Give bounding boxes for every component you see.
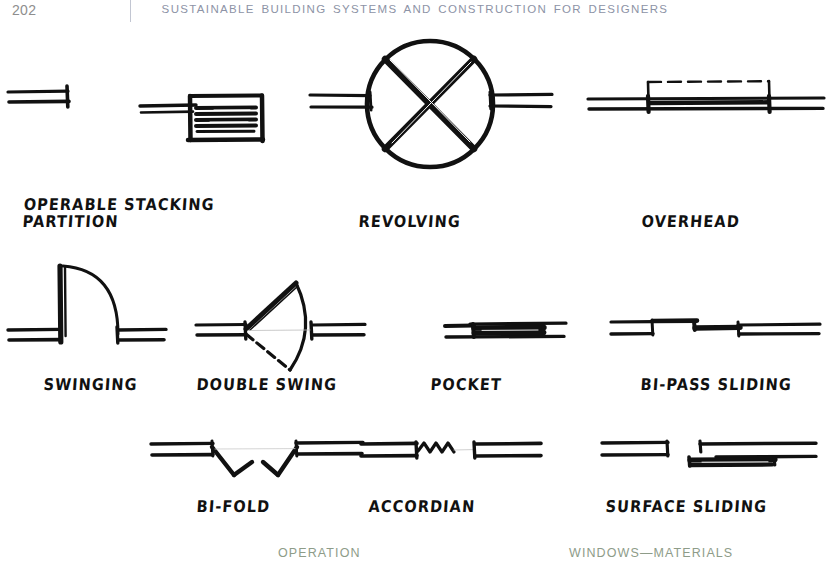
figure-revolving xyxy=(300,32,560,177)
figure-surface-sliding xyxy=(590,430,830,480)
figure-accordian xyxy=(355,430,555,475)
caption-line-1: DOUBLE SWING xyxy=(196,375,338,393)
caption-bi-pass-sliding: BI-PASS SLIDING xyxy=(640,376,792,393)
caption-line-1: OPERABLE STACKING xyxy=(23,195,215,213)
figure-overhead xyxy=(580,66,830,126)
caption-line-1: BI-PASS SLIDING xyxy=(640,375,793,393)
caption-line-1: REVOLVING xyxy=(358,212,461,230)
caption-line-1: SWINGING xyxy=(43,375,138,393)
caption-line-1: BI-FOLD xyxy=(196,497,271,515)
caption-operable-stacking-partition: OPERABLE STACKINGPARTITION xyxy=(22,196,215,230)
stacked-panel-partition-icon xyxy=(0,78,280,178)
footer-label-windows-materials: WINDOWS—MATERIALS xyxy=(569,546,733,560)
revolving-door-icon xyxy=(300,32,560,177)
running-head-title: SUSTAINABLE BUILDING SYSTEMS AND CONSTRU… xyxy=(0,3,830,15)
page-header: 202 SUSTAINABLE BUILDING SYSTEMS AND CON… xyxy=(0,0,830,26)
caption-revolving: REVOLVING xyxy=(358,213,461,230)
caption-line-1: POCKET xyxy=(430,375,502,393)
double-acting-door-icon xyxy=(190,272,430,372)
caption-pocket: POCKET xyxy=(430,376,502,393)
single-swing-door-icon xyxy=(0,250,190,360)
figure-double-swing xyxy=(190,272,430,372)
figure-swinging xyxy=(0,250,190,360)
caption-swinging: SWINGING xyxy=(43,376,138,393)
figure-pocket xyxy=(440,306,590,356)
caption-bi-fold: BI-FOLD xyxy=(196,498,271,515)
figure-operable-stacking-partition xyxy=(0,78,280,178)
surface-sliding-door-icon xyxy=(590,430,830,480)
pocket-door-icon xyxy=(440,306,590,356)
caption-accordian: ACCORDIAN xyxy=(368,498,476,515)
caption-line-1: OVERHEAD xyxy=(641,212,741,230)
caption-line-2: PARTITION xyxy=(22,212,119,230)
overhead-door-icon xyxy=(580,66,830,126)
bypass-sliding-door-icon xyxy=(605,308,830,353)
footer-label-operation: OPERATION xyxy=(278,546,361,560)
bifold-door-icon xyxy=(145,428,375,488)
caption-double-swing: DOUBLE SWING xyxy=(196,376,338,393)
caption-line-1: ACCORDIAN xyxy=(368,497,476,515)
accordion-door-icon xyxy=(355,430,555,475)
figure-bi-fold xyxy=(145,428,375,488)
figure-bi-pass-sliding xyxy=(605,308,830,353)
caption-overhead: OVERHEAD xyxy=(641,213,741,230)
caption-surface-sliding: SURFACE SLIDING xyxy=(605,498,768,515)
caption-line-1: SURFACE SLIDING xyxy=(605,497,768,515)
